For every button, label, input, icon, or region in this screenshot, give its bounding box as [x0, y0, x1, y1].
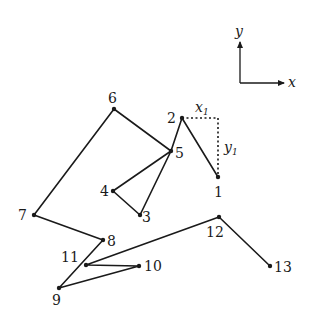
- point-11-label: 11: [61, 249, 79, 265]
- x-axis-label: x: [288, 74, 296, 90]
- point-3-label: 3: [142, 209, 151, 225]
- x1-label: x1: [195, 99, 209, 117]
- diagram-canvas: y x x1 y1 12345678910111213: [0, 0, 310, 313]
- point-labels: 12345678910111213: [18, 90, 292, 308]
- point-5-label: 5: [175, 145, 184, 161]
- point-6-dot: [112, 107, 116, 111]
- point-9-label: 9: [52, 292, 61, 308]
- point-12-dot: [217, 215, 221, 219]
- y-axis-label: y: [234, 23, 244, 39]
- point-6-label: 6: [108, 90, 117, 106]
- point-9-dot: [57, 286, 61, 290]
- point-12-label: 12: [206, 224, 224, 240]
- point-13-label: 13: [274, 259, 292, 275]
- diagram-svg: y x x1 y1 12345678910111213: [0, 0, 310, 313]
- point-8-dot: [101, 238, 105, 242]
- point-7-dot: [32, 213, 36, 217]
- point-10-label: 10: [144, 258, 162, 274]
- point-4-label: 4: [100, 183, 109, 199]
- point-5-dot: [169, 149, 173, 153]
- point-10-dot: [137, 264, 141, 268]
- point-8-label: 8: [107, 233, 116, 249]
- y1-label: y1: [223, 139, 238, 157]
- point-1-label: 1: [214, 184, 223, 200]
- point-11-dot: [84, 263, 88, 267]
- coordinate-axes: y x: [234, 23, 296, 90]
- point-13-dot: [268, 264, 272, 268]
- displacement-guides: x1 y1: [182, 99, 238, 177]
- point-2-dot: [180, 116, 184, 120]
- point-7-label: 7: [18, 207, 27, 223]
- point-2-label: 2: [167, 110, 176, 126]
- point-1-dot: [216, 175, 220, 179]
- point-4-dot: [111, 189, 115, 193]
